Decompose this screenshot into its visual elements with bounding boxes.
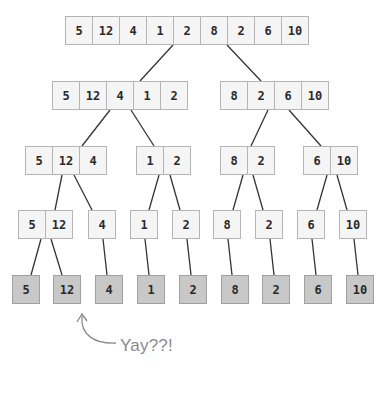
array-level-3: 8 [213, 210, 241, 239]
array-cell: 2 [160, 81, 188, 110]
array-level-2: 1 2 [136, 146, 191, 175]
array-cell: 12 [52, 146, 80, 175]
curved-up-arrow [77, 314, 116, 343]
leaf-array: 1 [137, 275, 165, 304]
array-cell: 10 [281, 16, 309, 45]
tree-connectors [0, 0, 389, 395]
array-cell: 1 [146, 16, 174, 45]
array-level-2: 8 2 [220, 146, 275, 175]
leaf-cell: 5 [12, 275, 40, 304]
array-cell: 5 [65, 16, 93, 45]
array-cell: 10 [301, 81, 329, 110]
array-cell: 2 [255, 210, 283, 239]
array-cell: 4 [106, 81, 134, 110]
leaf-array: 4 [95, 275, 123, 304]
array-level-1-left: 5 12 4 1 2 [52, 81, 188, 110]
leaf-array: 8 [221, 275, 249, 304]
array-cell: 5 [52, 81, 80, 110]
leaf-cell: 1 [137, 275, 165, 304]
array-cell: 8 [220, 146, 248, 175]
array-cell: 12 [79, 81, 107, 110]
array-cell: 8 [220, 81, 248, 110]
array-cell: 2 [173, 16, 201, 45]
array-cell: 1 [133, 81, 161, 110]
leaf-cell: 8 [221, 275, 249, 304]
array-cell: 8 [200, 16, 228, 45]
array-level-3: 5 12 [18, 210, 73, 239]
array-cell: 4 [88, 210, 116, 239]
leaf-array: 6 [304, 275, 332, 304]
array-cell: 6 [303, 146, 331, 175]
merge-sort-diagram: 5 12 4 1 2 8 2 6 10 5 12 4 1 2 8 2 6 10 … [0, 0, 389, 395]
annotation-text: Yay??! [120, 336, 173, 356]
array-level-2: 6 10 [303, 146, 358, 175]
leaf-array: 5 [12, 275, 40, 304]
leaf-cell: 2 [179, 275, 207, 304]
array-cell: 8 [213, 210, 241, 239]
array-level-0: 5 12 4 1 2 8 2 6 10 [65, 16, 309, 45]
array-cell: 1 [136, 146, 164, 175]
array-cell: 5 [18, 210, 46, 239]
array-cell: 10 [330, 146, 358, 175]
array-cell: 2 [163, 146, 191, 175]
array-cell: 10 [339, 210, 367, 239]
leaf-cell: 4 [95, 275, 123, 304]
array-level-3: 10 [339, 210, 367, 239]
array-cell: 4 [119, 16, 147, 45]
leaf-array: 10 [346, 275, 374, 304]
array-cell: 12 [92, 16, 120, 45]
array-cell: 12 [45, 210, 73, 239]
array-cell: 4 [79, 146, 107, 175]
array-level-3: 1 [130, 210, 158, 239]
array-level-3: 4 [88, 210, 116, 239]
array-cell: 2 [172, 210, 200, 239]
leaf-cell: 10 [346, 275, 374, 304]
array-level-2: 5 12 4 [25, 146, 107, 175]
leaf-cell: 12 [53, 275, 81, 304]
array-cell: 6 [297, 210, 325, 239]
array-cell: 2 [247, 81, 275, 110]
array-cell: 6 [274, 81, 302, 110]
leaf-cell: 2 [262, 275, 290, 304]
leaf-array: 12 [53, 275, 81, 304]
array-cell: 1 [130, 210, 158, 239]
array-level-3: 2 [255, 210, 283, 239]
array-cell: 6 [254, 16, 282, 45]
array-cell: 5 [25, 146, 53, 175]
array-level-1-right: 8 2 6 10 [220, 81, 329, 110]
leaf-cell: 6 [304, 275, 332, 304]
leaf-array: 2 [179, 275, 207, 304]
array-cell: 2 [227, 16, 255, 45]
array-cell: 2 [247, 146, 275, 175]
array-level-3: 2 [172, 210, 200, 239]
leaf-array: 2 [262, 275, 290, 304]
array-level-3: 6 [297, 210, 325, 239]
